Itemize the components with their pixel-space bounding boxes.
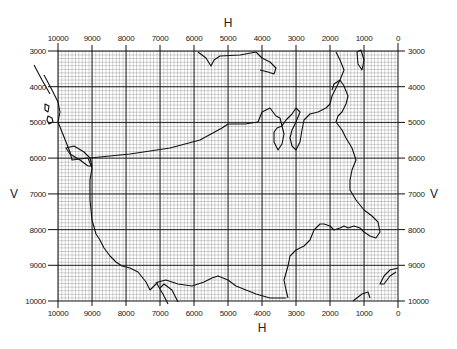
h-tick-label: 6000 xyxy=(186,309,203,318)
v-tick-label: 6000 xyxy=(408,154,425,163)
h-tick-label: 9000 xyxy=(84,309,101,318)
v-tick-label: 7000 xyxy=(29,190,46,199)
h-tick-label: 8000 xyxy=(118,34,135,43)
h-tick-label: 4000 xyxy=(254,309,271,318)
h-tick-label: 6000 xyxy=(186,34,203,43)
h-tick-label: 0 xyxy=(396,34,401,43)
v-tick-label: 5000 xyxy=(29,118,46,127)
h-tick-label: 1000 xyxy=(356,309,373,318)
bottom-axis-title: H xyxy=(258,321,267,335)
v-tick-label: 4000 xyxy=(29,83,46,92)
v-tick-label: 9000 xyxy=(29,261,46,270)
h-tick-label: 9000 xyxy=(84,34,101,43)
right-axis-labels: 3000 4000 5000 6000 7000 V 8000 9000 100… xyxy=(408,47,438,306)
v-tick-label: 3000 xyxy=(29,47,46,56)
h-tick-label: 2000 xyxy=(322,34,339,43)
h-tick-label: 7000 xyxy=(152,309,169,318)
h-tick-label: 4000 xyxy=(254,34,271,43)
right-axis-title: V xyxy=(430,187,438,201)
left-axis-labels: 3000 4000 5000 6000 V 7000 8000 9000 100… xyxy=(10,47,47,306)
v-tick-label: 10000 xyxy=(408,297,430,306)
v-tick-label: 10000 xyxy=(25,297,47,306)
h-tick-label: 1000 xyxy=(356,34,373,43)
bottom-axis-labels: 10000 9000 8000 7000 6000 5000 4000 3000… xyxy=(48,309,401,335)
left-axis-title: V xyxy=(10,187,18,201)
h-tick-label: 7000 xyxy=(152,34,169,43)
h-tick-label: 5000 xyxy=(220,34,237,43)
coast-island-1 xyxy=(45,104,49,112)
v-tick-label: 3000 xyxy=(408,47,425,56)
h-tick-label: 0 xyxy=(396,309,401,318)
top-axis-title: H xyxy=(224,16,233,30)
v-tick-label: 5000 xyxy=(408,118,425,127)
h-tick-label: 5000 xyxy=(220,309,237,318)
v-tick-label: 9000 xyxy=(408,261,425,270)
v-tick-label: 4000 xyxy=(408,83,425,92)
top-axis-labels: H 10000 9000 8000 7000 6000 5000 4000 30… xyxy=(48,16,401,43)
h-tick-label: 3000 xyxy=(288,34,305,43)
h-tick-label: 10000 xyxy=(48,34,70,43)
v-tick-label: 6000 xyxy=(29,154,46,163)
h-tick-label: 8000 xyxy=(118,309,135,318)
h-tick-label: 2000 xyxy=(322,309,339,318)
v-tick-label: 7000 xyxy=(408,190,425,199)
vh-coordinate-map: H 10000 9000 8000 7000 6000 5000 4000 30… xyxy=(0,0,457,349)
v-tick-label: 8000 xyxy=(29,226,46,235)
v-tick-label: 8000 xyxy=(408,226,425,235)
h-tick-label: 10000 xyxy=(48,309,70,318)
h-tick-label: 3000 xyxy=(288,309,305,318)
